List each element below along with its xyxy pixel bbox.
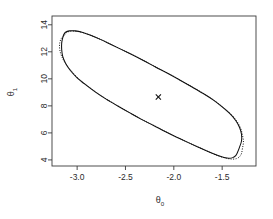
y-tick-label: 14 [39,20,49,30]
y-axis-title-subscript: 1 [11,87,18,91]
x-tick-label: -3.0 [70,172,85,182]
x-tick-label: -2.5 [118,172,133,182]
y-tick-label: 6 [39,130,49,135]
y-tick-label: 12 [39,47,49,57]
x-tick-label: -1.5 [215,172,230,182]
chart-container: -3.0-2.5-2.0-1.5 468101214 θ0 θ1 [0,0,273,219]
confidence-region-chart: -3.0-2.5-2.0-1.5 468101214 θ0 θ1 [0,0,273,219]
y-tick-label: 8 [39,103,49,108]
x-tick-label: -2.0 [166,172,181,182]
chart-background [0,0,273,219]
y-tick-label: 4 [39,157,49,162]
x-axis-title-subscript: 0 [161,200,165,207]
y-tick-label: 10 [39,74,49,84]
